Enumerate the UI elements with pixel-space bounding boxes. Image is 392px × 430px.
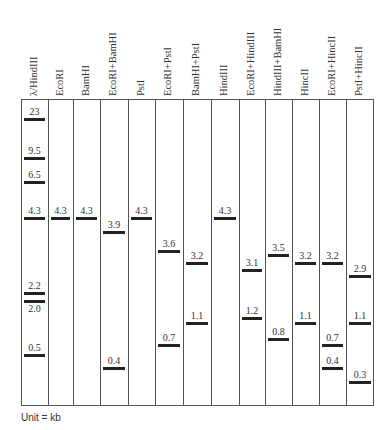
band-size-label: 4.3 bbox=[214, 206, 236, 216]
band bbox=[24, 157, 45, 160]
band-size-label: 4.3 bbox=[51, 206, 70, 216]
band-size-label: 4.3 bbox=[131, 206, 152, 216]
band-size-label: 0.4 bbox=[322, 356, 343, 366]
lane-divider bbox=[100, 99, 101, 406]
lane-label: EcoRI+PstI bbox=[162, 4, 173, 96]
lane-divider bbox=[292, 99, 293, 406]
band-size-label: 4.3 bbox=[24, 206, 45, 216]
lane-divider bbox=[239, 99, 240, 406]
lane-label: EcoRI+HindIII bbox=[245, 4, 256, 96]
lane-label: EcoRI+HincII bbox=[326, 4, 337, 96]
band bbox=[24, 292, 45, 295]
band-size-label: 3.2 bbox=[186, 251, 208, 261]
lane-label: BamHI bbox=[80, 4, 91, 96]
lane-divider bbox=[155, 99, 156, 406]
band bbox=[24, 217, 45, 220]
band-size-label: 0.8 bbox=[268, 327, 289, 337]
band-size-label: 23 bbox=[24, 107, 45, 117]
band bbox=[349, 275, 371, 278]
band bbox=[51, 217, 70, 220]
band-size-label: 4.3 bbox=[76, 206, 97, 216]
band bbox=[103, 367, 125, 370]
band bbox=[242, 269, 262, 272]
band-size-label: 0.7 bbox=[322, 333, 343, 343]
band-size-label: 0.3 bbox=[349, 370, 371, 380]
band-size-label: 3.9 bbox=[103, 220, 125, 230]
band-size-label: 9.5 bbox=[24, 146, 45, 156]
band-size-label: 2.2 bbox=[24, 281, 45, 291]
lane-label: BamHI+PstI bbox=[190, 4, 201, 96]
band bbox=[103, 231, 125, 234]
band bbox=[214, 217, 236, 220]
lane-divider bbox=[211, 99, 212, 406]
band bbox=[349, 322, 371, 325]
lane-divider bbox=[319, 99, 320, 406]
band-size-label: 1.2 bbox=[242, 306, 262, 316]
band-size-label: 0.5 bbox=[24, 343, 45, 353]
band bbox=[24, 181, 45, 184]
lane-divider bbox=[128, 99, 129, 406]
lane-label: HincII bbox=[299, 4, 310, 96]
band-size-label: 3.2 bbox=[295, 251, 316, 261]
band-size-label: 1.1 bbox=[295, 311, 316, 321]
lane-divider bbox=[48, 99, 49, 406]
band bbox=[322, 367, 343, 370]
band bbox=[158, 344, 180, 347]
band-size-label: 3.5 bbox=[268, 243, 289, 253]
lane-label: HindIII bbox=[218, 4, 229, 96]
band bbox=[349, 381, 371, 384]
band bbox=[186, 262, 208, 265]
lane-divider bbox=[73, 99, 74, 406]
lane-divider bbox=[346, 99, 347, 406]
unit-label: Unit = kb bbox=[21, 412, 61, 423]
band bbox=[131, 217, 152, 220]
band-size-label: 3.1 bbox=[242, 258, 262, 268]
band bbox=[76, 217, 97, 220]
lane-label: EcoRI+BamHI bbox=[107, 4, 118, 96]
band bbox=[186, 322, 208, 325]
lane-divider bbox=[265, 99, 266, 406]
gel-diagram: 239.56.54.32.22.00.54.34.33.90.44.33.60.… bbox=[0, 0, 392, 430]
lane-label: EcoRI bbox=[54, 4, 65, 96]
band bbox=[268, 338, 289, 341]
band bbox=[24, 118, 45, 121]
band-size-label: 0.7 bbox=[158, 333, 180, 343]
band bbox=[242, 317, 262, 320]
band bbox=[322, 344, 343, 347]
band bbox=[295, 322, 316, 325]
band bbox=[322, 262, 343, 265]
band-size-label: 6.5 bbox=[24, 170, 45, 180]
band-size-label: 3.6 bbox=[158, 239, 180, 249]
lane-label: PstI+HincII bbox=[353, 4, 364, 96]
band bbox=[24, 354, 45, 357]
band-size-label: 2.9 bbox=[349, 264, 371, 274]
band-size-label: 1.1 bbox=[186, 311, 208, 321]
band-size-label: 1.1 bbox=[349, 311, 371, 321]
lane-label: PstI bbox=[135, 4, 146, 96]
band bbox=[295, 262, 316, 265]
band bbox=[268, 254, 289, 257]
lane-label: HindIII+BamHI bbox=[272, 4, 283, 96]
lane-label: λ/HindIII bbox=[28, 4, 39, 96]
lane-divider bbox=[183, 99, 184, 406]
band-size-label: 3.2 bbox=[322, 251, 343, 261]
band-size-label: 0.4 bbox=[103, 356, 125, 366]
band bbox=[158, 250, 180, 253]
band-size-label: 2.0 bbox=[24, 304, 45, 314]
